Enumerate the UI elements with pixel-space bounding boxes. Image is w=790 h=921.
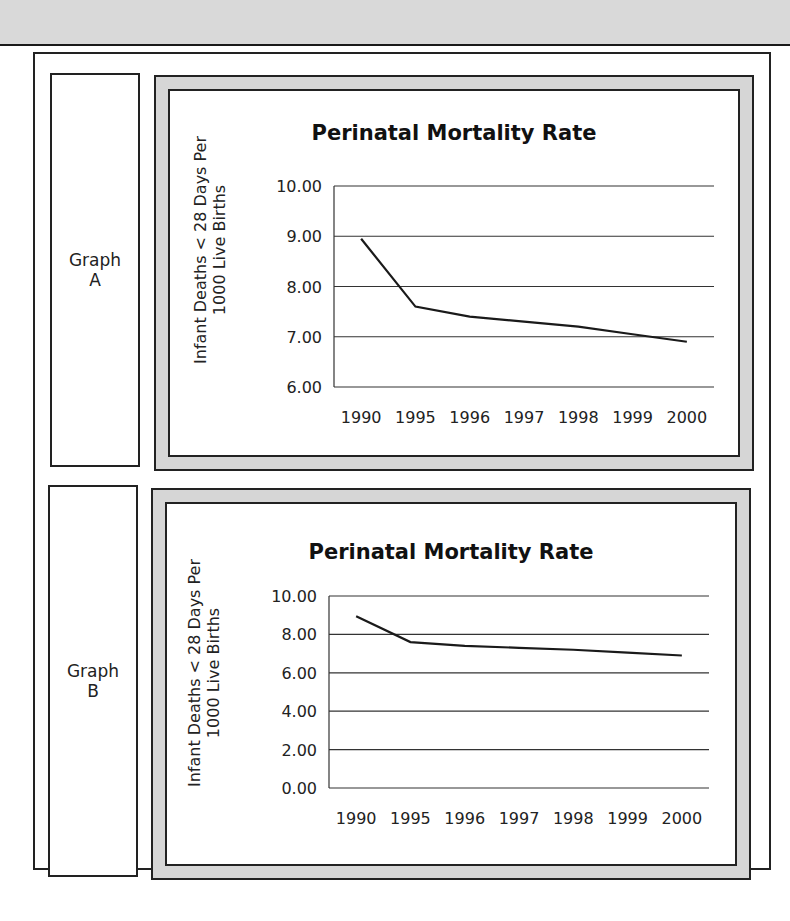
x-tick-label: 1996: [449, 408, 490, 427]
graph-a-side-label: Graph A: [50, 73, 140, 467]
x-tick-label: 1997: [504, 408, 545, 427]
graph-b-side-label: Graph B: [48, 485, 138, 877]
y-tick-label: 8.00: [286, 278, 322, 297]
data-line: [361, 239, 687, 342]
x-tick-label: 1998: [553, 809, 594, 828]
y-tick-label: 10.00: [276, 177, 322, 196]
x-tick-label: 1990: [336, 809, 377, 828]
x-tick-label: 1995: [395, 408, 436, 427]
graph-a-panel: Perinatal Mortality Rate Infant Deaths <…: [168, 89, 740, 457]
y-tick-label: 6.00: [281, 664, 317, 683]
x-tick-label: 2000: [666, 408, 707, 427]
y-tick-label: 2.00: [281, 741, 317, 760]
y-tick-label: 8.00: [281, 625, 317, 644]
side-label-letter: A: [69, 270, 121, 290]
side-label-letter: B: [67, 681, 119, 701]
x-tick-label: 1995: [390, 809, 431, 828]
graph-b-plot: 0.002.004.006.008.0010.00199019951996199…: [167, 504, 741, 870]
y-tick-label: 9.00: [286, 227, 322, 246]
x-tick-label: 1997: [499, 809, 540, 828]
x-tick-label: 1999: [612, 408, 653, 427]
graph-a-frame: Perinatal Mortality Rate Infant Deaths <…: [154, 75, 754, 471]
y-tick-label: 6.00: [286, 378, 322, 397]
side-label-text: Graph: [67, 661, 119, 681]
y-tick-label: 10.00: [271, 587, 317, 606]
y-tick-label: 7.00: [286, 328, 322, 347]
graph-b-frame: Perinatal Mortality Rate Infant Deaths <…: [151, 488, 751, 880]
x-tick-label: 1990: [341, 408, 382, 427]
y-tick-label: 0.00: [281, 779, 317, 798]
x-tick-label: 1996: [444, 809, 485, 828]
top-banner: [0, 0, 790, 46]
x-tick-label: 2000: [661, 809, 702, 828]
y-tick-label: 4.00: [281, 702, 317, 721]
side-label-text: Graph: [69, 250, 121, 270]
graph-b-panel: Perinatal Mortality Rate Infant Deaths <…: [165, 502, 737, 866]
graph-a-plot: 6.007.008.009.0010.001990199519961997199…: [170, 91, 744, 461]
x-tick-label: 1998: [558, 408, 599, 427]
data-line: [356, 616, 682, 655]
x-tick-label: 1999: [607, 809, 648, 828]
